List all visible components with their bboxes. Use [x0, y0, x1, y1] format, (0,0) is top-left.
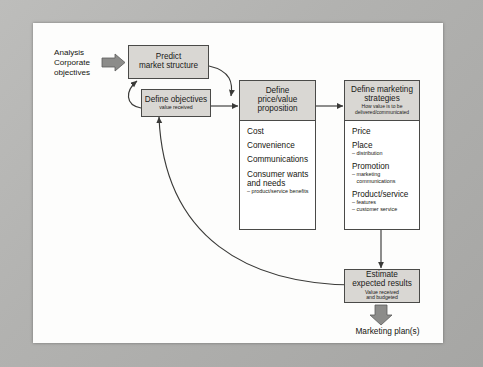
output-label: Marketing plan(s) — [340, 326, 435, 336]
connector-predict-to-objectives — [209, 66, 232, 96]
price-value-title-line3: proposition — [257, 105, 297, 114]
list-item: Cost — [247, 127, 309, 136]
node-objectives-subtitle: value received — [159, 105, 192, 111]
marketing-strategies-list: Price Place – distribution Promotion – m… — [345, 121, 419, 229]
estimate-title-line2: expected results — [352, 280, 412, 289]
price-value-item-label: Convenience — [247, 141, 309, 150]
block-arrow-right-icon — [102, 54, 125, 71]
diagram-page: Analysis Corporate objectives Predict ma… — [33, 23, 443, 343]
input-label-line3: objectives — [54, 68, 102, 78]
strategies-item-label: Place — [352, 141, 413, 150]
price-value-item-label: Consumer wants and needs — [247, 170, 309, 188]
block-arrow-down-icon — [370, 305, 392, 325]
price-value-item-sub: – product/service benefits — [247, 188, 309, 195]
marketing-strategies-subtitle-line2: delivered/communicated — [355, 110, 409, 116]
list-item: Promotion – marketing communications — [352, 162, 413, 185]
marketing-strategies-title-line2: strategies — [364, 95, 400, 104]
strategies-item-sub: – distribution — [352, 150, 413, 157]
connector-objectives-to-predict — [128, 81, 141, 108]
strategies-item-label: Promotion — [352, 162, 413, 171]
marketing-strategies-header: Define marketing strategies How value is… — [345, 81, 419, 121]
node-define-objectives[interactable]: Define objectives value received — [141, 89, 211, 117]
node-predict-market-structure[interactable]: Predict market structure — [128, 45, 209, 79]
input-label: Analysis Corporate objectives — [54, 48, 102, 79]
strategies-item-label: Price — [352, 127, 413, 136]
input-label-line1: Analysis — [54, 48, 102, 58]
price-value-list: Cost Convenience Communications Consumer… — [240, 121, 315, 229]
list-item: Convenience — [247, 141, 309, 150]
estimate-subtitle-line2: and budgeted — [366, 295, 398, 301]
node-define-marketing-strategies[interactable]: Define marketing strategies How value is… — [344, 80, 420, 230]
price-value-item-label: Communications — [247, 155, 309, 164]
strategies-item-label: Product/service — [352, 190, 413, 199]
list-item: Product/service – features – customer se… — [352, 190, 413, 213]
list-item: Communications — [247, 155, 309, 164]
node-predict-title-line2: market structure — [139, 62, 198, 71]
node-define-price-value-proposition[interactable]: Define price/value proposition Cost Conv… — [239, 80, 316, 230]
input-label-line2: Corporate — [54, 58, 102, 68]
list-item: Consumer wants and needs – product/servi… — [247, 170, 309, 195]
list-item: Place – distribution — [352, 141, 413, 157]
list-item: Price — [352, 127, 413, 136]
strategies-item-sub: – marketing communications — [352, 171, 413, 185]
node-estimate-expected-results[interactable]: Estimate expected results Value received… — [344, 269, 420, 303]
price-value-item-label: Cost — [247, 127, 309, 136]
price-value-header: Define price/value proposition — [240, 81, 315, 121]
strategies-item-sub: – features – customer service — [352, 199, 413, 213]
